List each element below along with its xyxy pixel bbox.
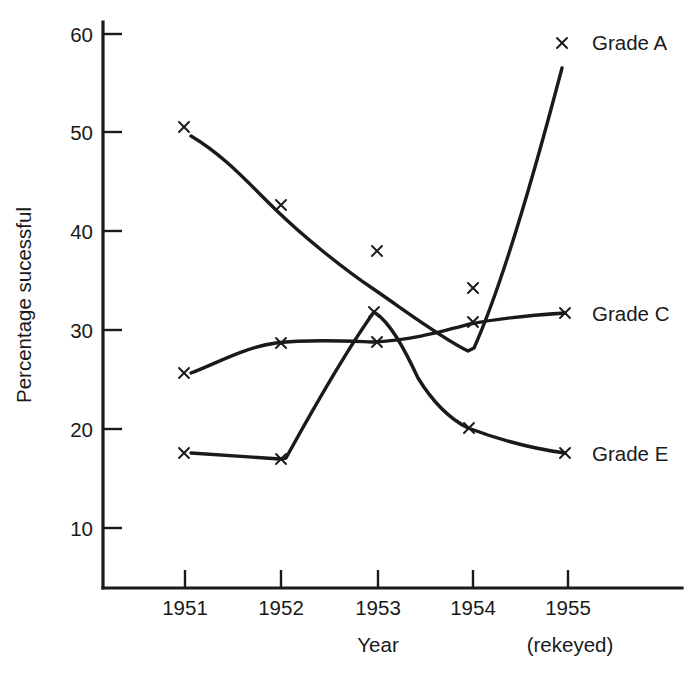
series-grade-e-line <box>191 312 565 459</box>
y-tick-label-30: 30 <box>70 319 93 342</box>
y-tick-label-10: 10 <box>70 517 93 540</box>
data-point-grade-c-1951 <box>179 368 189 378</box>
y-tick-label-20: 20 <box>70 418 93 441</box>
series-label-grade-a: Grade A <box>592 31 668 54</box>
series-grade-e: Grade E <box>179 307 668 465</box>
y-axis-tick-labels: 60 50 40 30 20 10 <box>70 23 93 540</box>
x-tick-label-1951: 1951 <box>162 596 208 619</box>
chart-figure: 60 50 40 30 20 10 Percentage sucessful 1… <box>0 0 694 674</box>
data-point-grade-e-1951 <box>179 448 189 458</box>
data-point-grade-a-1954 <box>468 283 478 293</box>
x-axis-tick-labels: 1951 1952 1953 1954 1955 <box>162 596 591 619</box>
x-axis-rekeyed-note: (rekeyed) <box>527 633 614 656</box>
y-tick-label-60: 60 <box>70 23 93 46</box>
x-tick-label-1952: 1952 <box>258 596 304 619</box>
data-point-grade-a-1953 <box>372 246 382 256</box>
y-axis-ticks <box>103 34 122 528</box>
y-axis-title: Percentage sucessful <box>12 207 35 403</box>
x-tick-label-1954: 1954 <box>450 596 496 619</box>
data-point-grade-e-1953 <box>369 307 379 317</box>
line-chart-canvas: 60 50 40 30 20 10 Percentage sucessful 1… <box>0 0 694 674</box>
series-label-grade-c: Grade C <box>592 302 670 325</box>
series-grade-c: Grade C <box>179 302 670 378</box>
x-tick-label-1955: 1955 <box>545 596 591 619</box>
y-tick-label-40: 40 <box>70 220 93 243</box>
x-tick-label-1953: 1953 <box>355 596 401 619</box>
x-axis-title: Year <box>357 633 399 656</box>
data-point-grade-a-1951 <box>179 122 189 132</box>
y-tick-label-50: 50 <box>70 121 93 144</box>
data-point-grade-a-1952 <box>276 200 286 210</box>
series-label-grade-e: Grade E <box>592 442 668 465</box>
data-point-grade-a-1955 <box>557 38 567 48</box>
x-axis-ticks <box>185 570 568 588</box>
